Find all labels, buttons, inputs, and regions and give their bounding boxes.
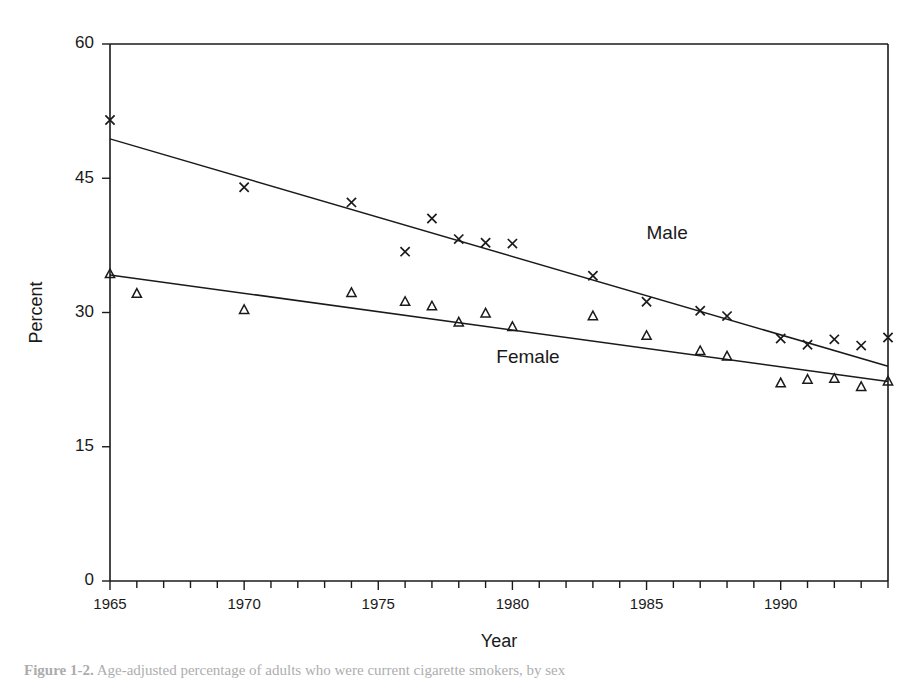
data-point-marker: [132, 289, 141, 298]
x-tick-label: 1970: [227, 595, 260, 612]
x-tick-label: 1965: [93, 595, 126, 612]
y-axis-title: Percent: [26, 281, 46, 343]
data-point-marker: [642, 297, 651, 306]
x-tick-label: 1975: [362, 595, 395, 612]
data-point-marker: [427, 214, 436, 223]
data-point-marker: [401, 297, 410, 306]
series-label-female: Female: [496, 346, 559, 367]
line-chart: 015304560196519701975198019851990Percent…: [0, 0, 924, 686]
series-label-male: Male: [647, 222, 688, 243]
data-point-marker: [481, 238, 490, 247]
data-point-marker: [776, 378, 785, 387]
data-point-marker: [857, 382, 866, 391]
data-point-marker: [427, 301, 436, 310]
data-point-marker: [588, 311, 597, 320]
data-point-marker: [347, 198, 356, 207]
x-tick-label: 1990: [764, 595, 797, 612]
data-point-marker: [347, 288, 356, 297]
figure-caption: Figure 1-2. Age-adjusted percentage of a…: [24, 662, 904, 686]
data-point-marker: [588, 271, 597, 280]
data-point-marker: [696, 346, 705, 355]
y-tick-label: 60: [75, 33, 94, 52]
y-tick-label: 0: [85, 570, 94, 589]
figure-container: 015304560196519701975198019851990Percent…: [0, 0, 924, 686]
data-point-marker: [803, 340, 812, 349]
data-point-marker: [830, 335, 839, 344]
x-tick-label: 1980: [496, 595, 529, 612]
x-axis-title: Year: [481, 631, 517, 651]
data-point-marker: [481, 308, 490, 317]
y-tick-label: 45: [75, 168, 94, 187]
y-tick-label: 30: [75, 302, 94, 321]
x-tick-label: 1985: [630, 595, 663, 612]
data-point-marker: [508, 322, 517, 331]
data-point-marker: [803, 375, 812, 384]
data-point-marker: [240, 183, 249, 192]
y-tick-label: 15: [75, 436, 94, 455]
data-point-marker: [508, 239, 517, 248]
figure-caption-text: Age-adjusted percentage of adults who we…: [97, 662, 566, 678]
data-point-marker: [857, 341, 866, 350]
data-point-marker: [642, 331, 651, 340]
trend-line-male: [110, 139, 888, 366]
figure-caption-number: Figure 1-2.: [24, 662, 94, 678]
data-point-marker: [240, 305, 249, 314]
data-point-marker: [401, 247, 410, 256]
